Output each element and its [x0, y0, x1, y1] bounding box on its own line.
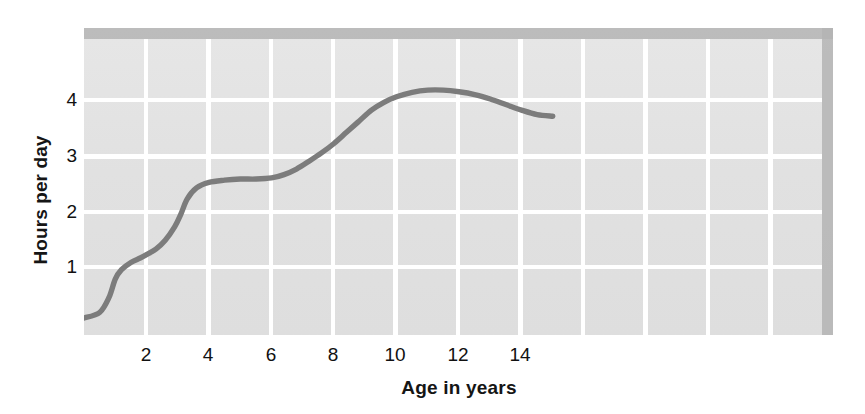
x-tick-label-12: 12 [436, 345, 480, 364]
chart-figure: 4 3 2 1 2 4 6 8 10 12 14 Hours per day A… [0, 0, 865, 414]
x-axis-title: Age in years [84, 377, 834, 399]
panel-top-shadow [84, 28, 833, 39]
x-tick-label-2: 2 [124, 345, 168, 364]
x-tick-label-4: 4 [186, 345, 230, 364]
x-tick-label-6: 6 [249, 345, 293, 364]
panel-right-shadow [822, 28, 833, 335]
y-axis-title: Hours per day [30, 100, 52, 300]
x-tick-label-10: 10 [373, 345, 417, 364]
x-tick-label-14: 14 [498, 345, 542, 364]
x-tick-label-8: 8 [311, 345, 355, 364]
